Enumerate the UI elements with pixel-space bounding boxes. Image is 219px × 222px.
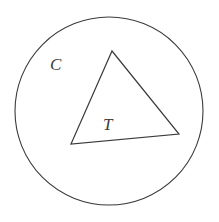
geometry-figure: C T — [0, 0, 219, 222]
figure-canvas: C T — [0, 0, 219, 222]
figure-background — [0, 0, 219, 222]
triangle-label-T: T — [103, 115, 114, 134]
circle-label-C: C — [50, 55, 62, 74]
